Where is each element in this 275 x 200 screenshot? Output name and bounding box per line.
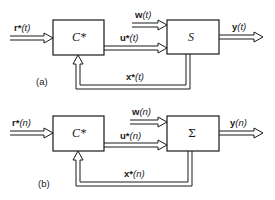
- disturbance-arrow-b: [130, 117, 167, 127]
- output-label-b: y(n): [230, 117, 247, 128]
- system-label-b: Σ: [188, 127, 196, 140]
- caption-b: (b): [38, 178, 50, 189]
- control-arrow-a: [104, 43, 167, 53]
- diagram-a: r*(t) C* w(t) u*(t) S y(t): [10, 9, 263, 89]
- control-label-a: u*(t): [120, 32, 138, 43]
- reference-arrow-b: [10, 128, 53, 138]
- reference-label-a: r*(t): [14, 22, 30, 33]
- diagram-b: r*(n) C* w(n) u*(n) Σ y(n): [10, 106, 263, 189]
- caption-a: (a): [36, 76, 48, 87]
- output-label-a: y(t): [232, 21, 246, 32]
- output-arrow-b: [219, 128, 263, 138]
- disturbance-label-b: w(n): [131, 106, 151, 117]
- system-label-a: S: [188, 30, 194, 44]
- state-label-b: x*(n): [124, 168, 145, 179]
- reference-arrow-a: [10, 33, 53, 43]
- output-arrow-a: [219, 32, 263, 42]
- controller-label-b: C*: [72, 126, 86, 140]
- block-diagram-figure: r*(t) C* w(t) u*(t) S y(t): [0, 0, 275, 200]
- disturbance-arrow-a: [132, 20, 167, 30]
- reference-label-b: r*(n): [12, 117, 31, 128]
- control-label-b: u*(n): [120, 130, 141, 141]
- state-label-a: x*(t): [126, 71, 144, 82]
- control-arrow-b: [104, 140, 167, 150]
- controller-label-a: C*: [72, 30, 86, 44]
- disturbance-label-a: w(t): [134, 9, 151, 20]
